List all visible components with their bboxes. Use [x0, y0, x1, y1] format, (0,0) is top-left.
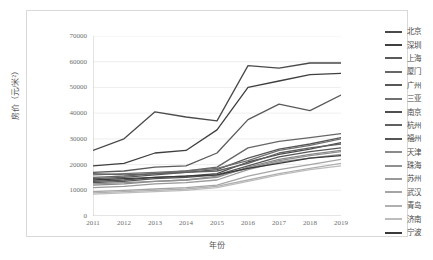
y-axis-tick-labels: 010000200003000040000500006000070000: [39, 36, 87, 216]
y-axis-title: 房价（元/米²）: [9, 56, 20, 132]
y-axis-tick-label: 40000: [41, 109, 87, 117]
y-axis-tick-label: 20000: [41, 161, 87, 169]
x-axis-tick-label: 2018: [303, 219, 317, 227]
series-lines: [93, 63, 341, 194]
legend-item[interactable]: 天津: [385, 146, 433, 159]
legend-item[interactable]: 苏州: [385, 172, 433, 185]
x-axis-tick-label: 2012: [117, 219, 131, 227]
legend-item-label: 苏州: [407, 174, 421, 183]
plot-area: [93, 36, 341, 216]
legend-item-label: 厦门: [407, 67, 421, 76]
chart-legend: 北京深圳上海厦门广州三亚南京杭州福州天津珠海苏州武汉青岛济南宁波: [385, 25, 433, 239]
x-axis-tick-label: 2019: [334, 219, 348, 227]
legend-item-label: 广州: [407, 81, 421, 90]
legend-item[interactable]: 福州: [385, 132, 433, 145]
legend-swatch-icon: [385, 218, 402, 220]
series-line: [93, 138, 341, 179]
x-axis-tick-label: 2015: [210, 219, 224, 227]
y-axis-tick-label: 60000: [41, 58, 87, 66]
legend-item-label: 济南: [407, 215, 421, 224]
legend-swatch-icon: [385, 71, 402, 73]
chart-frame: 010000200003000040000500006000070000 201…: [26, 10, 408, 237]
legend-item-label: 青岛: [407, 201, 421, 210]
legend-item[interactable]: 青岛: [385, 199, 433, 212]
y-axis-tick-label: 50000: [41, 83, 87, 91]
legend-item[interactable]: 厦门: [385, 65, 433, 78]
legend-item[interactable]: 珠海: [385, 159, 433, 172]
legend-item-label: 北京: [407, 27, 421, 36]
legend-item[interactable]: 宁波: [385, 226, 433, 239]
legend-item-label: 珠海: [407, 161, 421, 170]
legend-item[interactable]: 三亚: [385, 92, 433, 105]
legend-item[interactable]: 深圳: [385, 38, 433, 51]
legend-item-label: 天津: [407, 148, 421, 157]
y-axis-tick-label: 70000: [41, 32, 87, 40]
line-chart-svg: [93, 36, 341, 216]
legend-swatch-icon: [385, 165, 402, 167]
x-axis-tick-label: 2016: [241, 219, 255, 227]
legend-swatch-icon: [385, 151, 402, 153]
y-axis-tick-label: 30000: [41, 135, 87, 143]
legend-swatch-icon: [385, 31, 402, 33]
x-axis-tick-label: 2017: [272, 219, 286, 227]
legend-swatch-icon: [385, 205, 402, 207]
legend-swatch-icon: [385, 111, 402, 113]
legend-swatch-icon: [385, 98, 402, 100]
gridlines: [93, 36, 341, 216]
legend-item[interactable]: 北京: [385, 25, 433, 38]
x-axis-tick-label: 2014: [179, 219, 193, 227]
legend-swatch-icon: [385, 84, 402, 86]
legend-item[interactable]: 南京: [385, 105, 433, 118]
legend-item[interactable]: 上海: [385, 52, 433, 65]
y-axis-tick-label: 10000: [41, 186, 87, 194]
legend-item-label: 杭州: [407, 121, 421, 130]
x-axis-tick-label: 2013: [148, 219, 162, 227]
legend-item-label: 南京: [407, 108, 421, 117]
legend-item[interactable]: 济南: [385, 212, 433, 225]
legend-swatch-icon: [385, 124, 402, 126]
legend-item-label: 宁波: [407, 228, 421, 237]
legend-item[interactable]: 杭州: [385, 119, 433, 132]
legend-swatch-icon: [385, 44, 402, 46]
y-axis-tick-label: 0: [41, 212, 87, 220]
legend-item-label: 福州: [407, 134, 421, 143]
legend-swatch-icon: [385, 191, 402, 193]
x-axis-title: 年份: [0, 239, 433, 250]
legend-item-label: 三亚: [407, 94, 421, 103]
x-axis-tick-label: 2011: [86, 219, 100, 227]
legend-item-label: 深圳: [407, 41, 421, 50]
legend-item-label: 上海: [407, 54, 421, 63]
legend-swatch-icon: [385, 138, 402, 140]
legend-swatch-icon: [385, 178, 402, 180]
legend-swatch-icon: [385, 232, 402, 234]
legend-item[interactable]: 广州: [385, 79, 433, 92]
legend-swatch-icon: [385, 57, 402, 59]
legend-item-label: 武汉: [407, 188, 421, 197]
x-axis-tick-labels: 201120122013201420152016201720182019: [93, 219, 341, 233]
legend-item[interactable]: 武汉: [385, 186, 433, 199]
chart-root: 010000200003000040000500006000070000 201…: [0, 0, 433, 260]
